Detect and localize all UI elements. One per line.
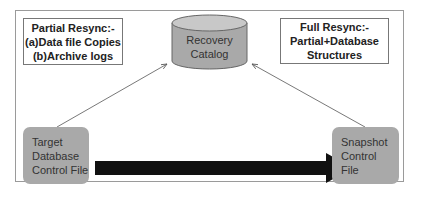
- snapshot-line-3: File: [341, 163, 399, 177]
- full-resync-note: Full Resync:- Partial+Database Structure…: [280, 18, 389, 64]
- arrow-snapshot-to-catalog: [252, 64, 365, 127]
- target-database-control-file: Target Database Control File: [23, 127, 89, 184]
- partial-resync-line-1: (a)Data file Copies: [25, 35, 121, 49]
- full-resync-title: Full Resync:-: [300, 20, 369, 34]
- snapshot-control-file: Snapshot Control File: [332, 127, 399, 184]
- snapshot-line-1: Snapshot: [341, 135, 399, 149]
- partial-resync-note: Partial Resync:- (a)Data file Copies (b)…: [23, 18, 123, 65]
- target-line-2: Database: [32, 149, 89, 163]
- full-resync-line-1: Partial+Database: [290, 34, 379, 48]
- target-line-3: Control File: [32, 163, 89, 177]
- thick-arrow-target-to-snapshot: [95, 153, 353, 183]
- snapshot-line-2: Control: [341, 149, 399, 163]
- recovery-catalog-label: Recovery Catalog: [172, 33, 247, 61]
- partial-resync-line-2: (b)Archive logs: [33, 49, 113, 63]
- partial-resync-title: Partial Resync:-: [31, 21, 114, 35]
- recovery-catalog-line-2: Catalog: [172, 47, 247, 61]
- full-resync-line-2: Structures: [307, 48, 362, 62]
- arrow-target-to-catalog: [57, 64, 167, 127]
- recovery-catalog-line-1: Recovery: [172, 33, 247, 47]
- target-line-1: Target: [32, 135, 89, 149]
